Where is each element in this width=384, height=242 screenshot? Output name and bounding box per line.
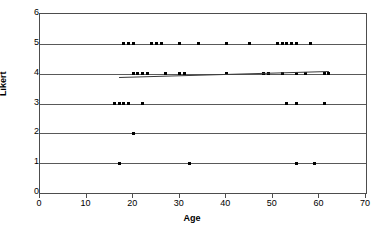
gridline-y-3 <box>40 104 366 105</box>
data-point <box>323 102 326 105</box>
data-point <box>309 42 312 45</box>
gridline-y-2 <box>40 133 366 134</box>
y-axis-labels: 0123456 <box>13 13 39 194</box>
data-point <box>127 102 130 105</box>
data-point <box>118 162 121 165</box>
y-axis-title: Likert <box>0 71 8 96</box>
data-point <box>313 162 316 165</box>
data-point <box>295 102 298 105</box>
data-point <box>122 42 125 45</box>
plot-area <box>39 13 367 194</box>
data-point <box>225 42 228 45</box>
x-tick-label-60: 60 <box>303 199 333 208</box>
x-tick-label-40: 40 <box>210 199 240 208</box>
data-point <box>197 42 200 45</box>
x-axis-title: Age <box>0 213 384 223</box>
x-tick-label-70: 70 <box>350 199 380 208</box>
data-point <box>132 132 135 135</box>
data-point <box>248 42 251 45</box>
data-point <box>146 72 149 75</box>
y-tick-label-6: 6 <box>17 8 39 17</box>
data-point <box>155 42 158 45</box>
gridline-y-5 <box>40 44 366 45</box>
x-tick-label-50: 50 <box>257 199 287 208</box>
y-tick-label-5: 5 <box>17 38 39 47</box>
data-point <box>113 102 116 105</box>
data-point <box>160 42 163 45</box>
y-tick-label-1: 1 <box>17 157 39 166</box>
x-axis-labels: 010203040506070 <box>39 194 367 214</box>
data-point <box>132 42 135 45</box>
x-tick-label-0: 0 <box>24 199 54 208</box>
x-tick-label-20: 20 <box>117 199 147 208</box>
scatter-chart: 0123456 Likert 010203040506070 Age <box>0 0 384 242</box>
x-tick-label-30: 30 <box>164 199 194 208</box>
data-point <box>285 42 288 45</box>
data-point <box>141 102 144 105</box>
data-point <box>285 102 288 105</box>
y-tick-label-2: 2 <box>17 127 39 136</box>
data-point <box>150 42 153 45</box>
data-point <box>118 102 121 105</box>
gridline-y-1 <box>40 163 366 164</box>
data-point <box>122 102 125 105</box>
data-point <box>295 162 298 165</box>
data-point <box>188 162 191 165</box>
x-tick-label-10: 10 <box>71 199 101 208</box>
y-tick-label-0: 0 <box>17 187 39 196</box>
data-point <box>281 42 284 45</box>
data-point <box>178 42 181 45</box>
data-point <box>127 42 130 45</box>
data-point <box>141 72 144 75</box>
data-point <box>276 42 279 45</box>
data-point <box>132 72 135 75</box>
y-tick-label-3: 3 <box>17 98 39 107</box>
data-point <box>323 72 326 75</box>
data-point <box>327 72 330 75</box>
data-point <box>290 42 293 45</box>
data-point <box>295 42 298 45</box>
data-point <box>136 72 139 75</box>
y-tick-label-4: 4 <box>17 68 39 77</box>
